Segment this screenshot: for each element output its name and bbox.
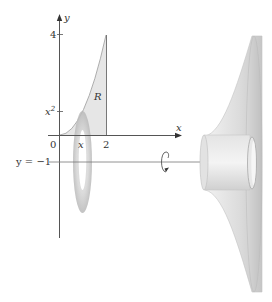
x-tick-label-2: 2 — [103, 139, 109, 150]
region-plot: y x 4 x2 0 x 2 R y = −1 — [15, 12, 201, 238]
x-axis-label: x — [176, 122, 182, 133]
rotation-line-label: y = −1 — [15, 156, 51, 167]
origin-label: 0 — [50, 139, 56, 150]
solid-of-revolution — [200, 36, 262, 292]
solid-cylinder-front-rim — [200, 135, 208, 190]
solid-hole-inner-highlight — [251, 141, 255, 185]
region-label: R — [93, 91, 102, 102]
y-tick-label-4: 4 — [50, 29, 56, 40]
solids-of-revolution-diagram: y x 4 x2 0 x 2 R y = −1 — [0, 0, 272, 302]
y-axis-arrow-icon — [57, 14, 62, 21]
y-tick-label-x2: x2 — [45, 105, 56, 117]
x-axis-arrow-icon — [175, 133, 182, 138]
y-axis-label: y — [63, 12, 70, 23]
solid-inner-cylinder — [204, 135, 250, 190]
x-tick-label-x: x — [78, 139, 84, 150]
